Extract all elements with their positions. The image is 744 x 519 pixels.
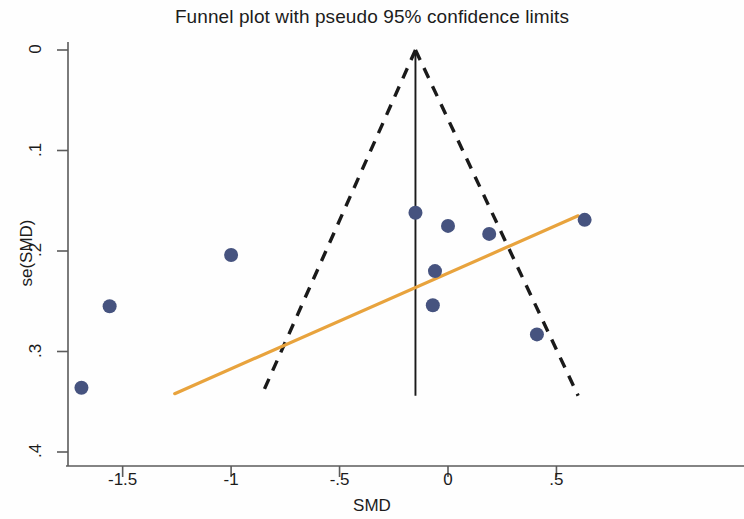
funnel-limit-line	[415, 50, 578, 396]
study-point	[441, 219, 455, 233]
x-axis-label: SMD	[0, 496, 744, 516]
axis-lines	[66, 42, 744, 466]
x-tick-label: -1.5	[93, 470, 153, 490]
y-axis-ticks	[57, 50, 68, 452]
funnel-plot-figure: Funnel plot with pseudo 95% confidence l…	[0, 0, 744, 519]
y-tick-label: .2	[26, 230, 46, 270]
x-tick-label: .5	[526, 470, 586, 490]
egger-regression-line	[175, 216, 578, 394]
study-point	[103, 299, 117, 313]
y-tick-label: .4	[26, 431, 46, 471]
plot-canvas	[0, 0, 744, 519]
study-point	[530, 327, 544, 341]
regression-line	[175, 216, 578, 394]
funnel-boundary-lines	[261, 50, 578, 396]
study-point	[408, 206, 422, 220]
study-point	[426, 298, 440, 312]
x-tick-label: 0	[418, 470, 478, 490]
study-point	[74, 381, 88, 395]
x-tick-label: -.5	[310, 470, 370, 490]
study-point	[482, 227, 496, 241]
y-tick-label: 0	[26, 29, 46, 69]
y-tick-label: .3	[26, 331, 46, 371]
study-point	[428, 264, 442, 278]
study-point	[578, 213, 592, 227]
x-tick-label: -1	[201, 470, 261, 490]
y-tick-label: .1	[26, 130, 46, 170]
study-point	[224, 248, 238, 262]
